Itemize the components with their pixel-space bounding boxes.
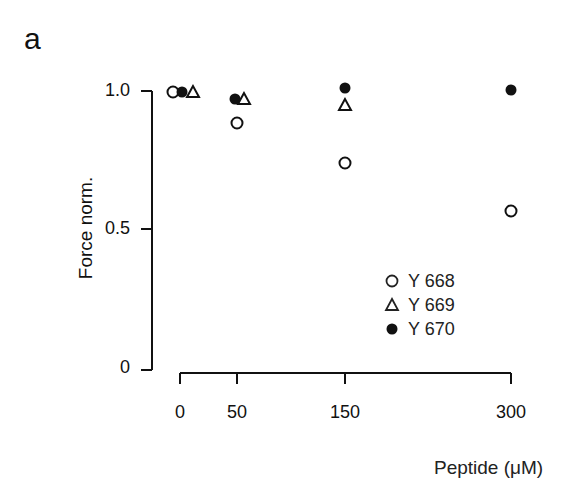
open-triangle-marker-icon (384, 297, 400, 313)
open-circle-marker-icon (384, 273, 400, 289)
legend: Y 668 Y 669 Y 670 (384, 269, 455, 341)
plot-area (0, 0, 585, 504)
legend-label: Y 668 (408, 271, 455, 292)
legend-item-y670: Y 670 (384, 317, 455, 341)
legend-label: Y 669 (408, 295, 455, 316)
filled-circle-marker-icon (384, 321, 400, 337)
legend-item-y668: Y 668 (384, 269, 455, 293)
x-axis (180, 373, 511, 384)
series-y669 (187, 86, 351, 110)
legend-label: Y 670 (408, 319, 455, 340)
y-axis (141, 91, 152, 370)
legend-item-y669: Y 669 (384, 293, 455, 317)
